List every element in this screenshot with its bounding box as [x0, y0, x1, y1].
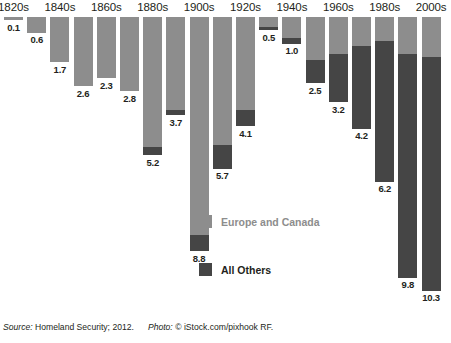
legend-swatch-others-icon — [199, 263, 212, 276]
bar-segment-others-1920s — [236, 110, 255, 126]
bar-segment-europe-1940s — [282, 17, 301, 38]
bar-segment-europe-1930s — [259, 17, 278, 27]
bar-1820s — [4, 17, 23, 20]
photo-prefix: Photo: — [148, 322, 173, 332]
bar-segment-europe-1980s — [375, 17, 394, 41]
bar-value-label-1920s: 4.1 — [226, 128, 266, 139]
bar-segment-europe-1830s — [27, 17, 46, 33]
bar-segment-others-1980s — [375, 41, 394, 182]
bar-segment-others-1940s — [282, 38, 301, 43]
bar-segment-others-1950s — [306, 60, 325, 84]
bar-segment-others-1910s — [213, 145, 232, 169]
axis-tick-1860s: 1860s — [81, 1, 131, 13]
legend-item-all-others: All Others — [199, 263, 271, 276]
decade-axis: 1820s1840s1860s1880s1900s1920s1940s1960s… — [0, 0, 445, 17]
bar-1870s — [120, 17, 139, 91]
legend-swatch-europe-icon — [199, 215, 212, 228]
bar-value-label-1910s: 5.7 — [202, 170, 242, 181]
bar-segment-others-1990s — [398, 54, 417, 277]
bar-1830s — [27, 17, 46, 33]
bar-segment-others-1900s — [190, 235, 209, 251]
bar-1910s — [213, 17, 232, 169]
legend-item-europe-and-canada: Europe and Canada — [199, 215, 320, 228]
bar-segment-others-1890s — [166, 110, 185, 115]
axis-tick-1900s: 1900s — [174, 1, 224, 13]
bar-1860s — [97, 17, 116, 78]
legend-label-europe: Europe and Canada — [221, 216, 320, 228]
bar-segment-europe-1860s — [97, 17, 116, 78]
bar-segment-europe-1870s — [120, 17, 139, 91]
bar-segment-europe-1970s — [352, 17, 371, 46]
bar-value-label-1880s: 5.2 — [133, 157, 173, 168]
bar-segment-europe-1850s — [74, 17, 93, 86]
bar-segment-europe-1840s — [50, 17, 69, 62]
axis-tick-1940s: 1940s — [267, 1, 317, 13]
bar-segment-others-2000s — [422, 57, 441, 291]
source-caption: Source: Homeland Security; 2012.Photo: ©… — [3, 322, 273, 332]
bar-1980s — [375, 17, 394, 182]
bar-segment-europe-1990s — [398, 17, 417, 54]
bar-1950s — [306, 17, 325, 84]
source-text: Homeland Security; 2012. — [35, 322, 134, 332]
bar-1880s — [143, 17, 162, 155]
photo-credit-text: © iStock.com/pixhook RF. — [175, 322, 273, 332]
bar-value-label-1900s: 8.8 — [179, 253, 219, 264]
bar-1940s — [282, 17, 301, 44]
bar-value-label-2000s: 10.3 — [411, 292, 451, 303]
bar-1930s — [259, 17, 278, 30]
axis-tick-1840s: 1840s — [35, 1, 85, 13]
source-prefix: Source: — [3, 322, 33, 332]
axis-tick-2000s: 2000s — [406, 1, 451, 13]
bar-1970s — [352, 17, 371, 129]
bar-segment-others-1880s — [143, 147, 162, 155]
bar-segment-others-1970s — [352, 46, 371, 128]
bar-segment-europe-1950s — [306, 17, 325, 60]
bar-1850s — [74, 17, 93, 86]
bar-segment-europe-1910s — [213, 17, 232, 145]
axis-tick-1960s: 1960s — [313, 1, 363, 13]
bar-segment-europe-1890s — [166, 17, 185, 110]
axis-tick-1880s: 1880s — [128, 1, 178, 13]
bar-1840s — [50, 17, 69, 62]
bar-segment-europe-1960s — [329, 17, 348, 54]
axis-tick-1980s: 1980s — [360, 1, 410, 13]
bar-1990s — [398, 17, 417, 278]
bar-2000s — [422, 17, 441, 291]
bar-segment-europe-1900s — [190, 17, 209, 235]
bar-1890s — [166, 17, 185, 115]
legend-label-others: All Others — [221, 264, 271, 276]
axis-tick-1820s: 1820s — [0, 1, 39, 13]
bar-segment-others-1960s — [329, 54, 348, 102]
bar-segment-others-1930s — [259, 27, 278, 30]
axis-tick-1920s: 1920s — [221, 1, 271, 13]
bar-segment-europe-1820s — [4, 17, 23, 20]
bar-segment-europe-2000s — [422, 17, 441, 57]
bar-1960s — [329, 17, 348, 102]
